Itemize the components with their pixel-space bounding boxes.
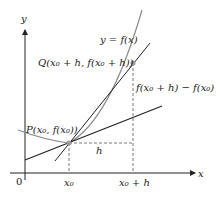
x0-plus-h-tick-label: x₀ + h: [119, 177, 150, 188]
x-axis-label: x: [198, 168, 204, 179]
run-label: h: [96, 145, 102, 156]
derivative-diagram: y x 0 y = f(x) Q(x₀ + h, f(x₀ + h)) f(x₀…: [0, 0, 223, 197]
point-p-label: P(x₀, f(x₀)): [25, 124, 78, 135]
origin-label: 0: [16, 176, 22, 187]
point-p: [67, 141, 72, 146]
curve-label: y = f(x): [99, 34, 138, 45]
y-axis-label: y: [20, 13, 27, 24]
point-q-label: Q(x₀ + h, f(x₀ + h)): [38, 57, 134, 68]
rise-label: f(x₀ + h) − f(x₀): [135, 82, 214, 93]
x0-tick-label: x₀: [64, 177, 74, 188]
